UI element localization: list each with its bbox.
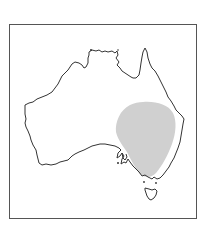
island-bass-strait-1 (143, 181, 145, 183)
island-kangaroo (117, 162, 119, 164)
island-bass-strait-2 (155, 182, 157, 184)
tasmania-coastline (145, 188, 157, 200)
distribution-range (116, 102, 176, 177)
australia-map (0, 0, 207, 227)
island-north-2 (90, 49, 92, 51)
island-north-1 (117, 49, 119, 51)
